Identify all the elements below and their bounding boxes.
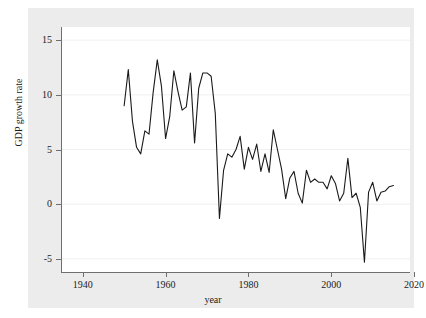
x-tick-mark bbox=[83, 272, 84, 277]
x-tick-label: 2020 bbox=[389, 279, 426, 290]
y-axis-title: GDP growth rate bbox=[13, 53, 24, 173]
gdp-growth-line bbox=[124, 60, 393, 262]
y-tick-mark bbox=[56, 204, 62, 205]
plot-area bbox=[62, 27, 410, 272]
y-tick-mark bbox=[56, 95, 62, 96]
x-tick-mark bbox=[248, 272, 249, 277]
y-tick-mark bbox=[56, 150, 62, 151]
x-tick-label: 2000 bbox=[306, 279, 356, 290]
y-tick-mark bbox=[56, 259, 62, 260]
x-tick-mark bbox=[331, 272, 332, 277]
x-tick-label: 1980 bbox=[223, 279, 273, 290]
x-tick-label: 1960 bbox=[141, 279, 191, 290]
x-axis-line bbox=[61, 272, 410, 273]
y-tick-mark bbox=[56, 40, 62, 41]
chart-figure: -5051015 19401960198020002020 GDP growth… bbox=[0, 0, 426, 318]
plot-svg bbox=[62, 27, 410, 272]
y-tick-label: -5 bbox=[12, 254, 52, 264]
x-tick-label: 1940 bbox=[58, 279, 108, 290]
y-tick-label: 0 bbox=[12, 199, 52, 209]
x-tick-mark bbox=[414, 272, 415, 277]
x-tick-mark bbox=[166, 272, 167, 277]
y-tick-label: 15 bbox=[12, 35, 52, 45]
x-axis-title: year bbox=[0, 294, 426, 305]
